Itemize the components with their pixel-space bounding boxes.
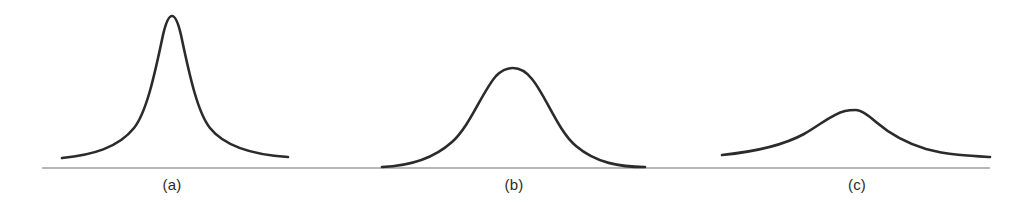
distribution-curves-figure — [0, 0, 1029, 202]
figure-container: (a) (b) (c) — [0, 0, 1029, 202]
panel-label-b: (b) — [505, 176, 524, 193]
leptokurtic-curve — [62, 16, 288, 158]
platykurtic-curve — [722, 110, 990, 157]
mesokurtic-curve — [382, 68, 645, 167]
panel-label-c: (c) — [848, 176, 866, 193]
panel-label-a: (a) — [163, 176, 182, 193]
